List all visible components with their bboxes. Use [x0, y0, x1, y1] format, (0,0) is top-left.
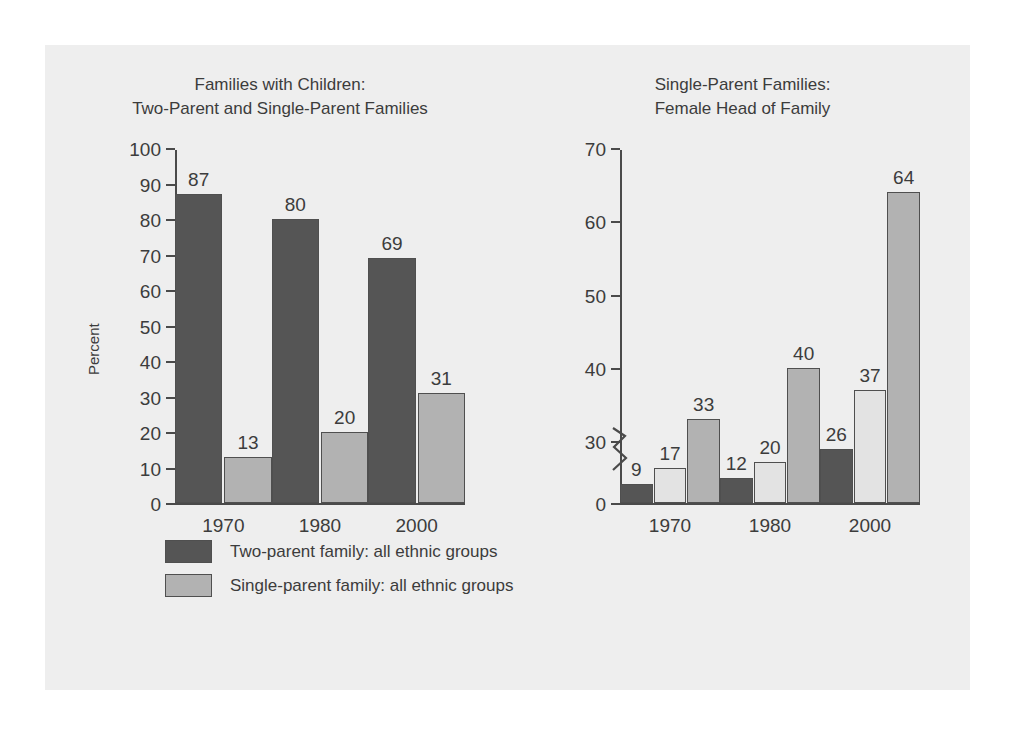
bar-rect	[418, 393, 465, 503]
y-axis-tick-label: 100	[129, 139, 161, 161]
bar-rect	[820, 449, 853, 503]
y-axis-tick-label: 80	[140, 210, 161, 232]
y-axis-tick	[166, 432, 175, 434]
bar[interactable]: 20	[321, 432, 368, 503]
y-axis-tick	[611, 221, 620, 223]
bar-group: 917331970	[620, 148, 720, 503]
legend-item[interactable]: Two-parent family: all ethnic groups	[165, 540, 513, 563]
bar-value-label: 64	[893, 167, 914, 189]
y-axis-tick-label: 0	[150, 494, 161, 516]
x-axis-line-right	[620, 503, 920, 505]
chart-title-left: Families with Children: Two-Parent and S…	[45, 73, 515, 121]
y-axis-tick	[166, 397, 175, 399]
plot-area-left: 0102030405060708090100 87131970802019806…	[175, 150, 465, 505]
bar[interactable]: 17	[654, 468, 687, 503]
y-axis-tick-label: 50	[140, 317, 161, 339]
bar-value-label: 9	[631, 459, 642, 481]
x-axis-category-label: 2000	[849, 515, 891, 537]
bar[interactable]: 40	[787, 368, 820, 503]
bar-value-label: 26	[826, 424, 847, 446]
y-axis-tick-label: 10	[140, 459, 161, 481]
y-axis-tick-label: 50	[585, 286, 606, 308]
x-axis-category-label: 1970	[649, 515, 691, 537]
bar-rect	[224, 457, 271, 503]
bar-value-label: 80	[285, 194, 306, 216]
bar-rect	[720, 478, 753, 503]
x-axis-category-label: 1970	[202, 515, 244, 537]
x-axis-category-label: 1980	[299, 515, 341, 537]
bar-group: 80201980	[272, 148, 369, 503]
bar-group: 2637642000	[820, 148, 920, 503]
chart-single-parent-female-head: Single-Parent Families: Female Head of F…	[515, 45, 970, 690]
chart-families-with-children: Families with Children: Two-Parent and S…	[45, 45, 515, 690]
plot-area-right: 03040506070 9173319701220401980263764200…	[620, 150, 920, 505]
y-axis-tick-label: 20	[140, 423, 161, 445]
y-axis-tick	[166, 503, 175, 505]
chart-title-right: Single-Parent Families: Female Head of F…	[515, 73, 970, 121]
y-axis-tick	[166, 290, 175, 292]
bar-group: 87131970	[175, 148, 272, 503]
bar[interactable]: 26	[820, 449, 853, 503]
bar-value-label: 13	[237, 432, 258, 454]
bar-rect	[787, 368, 820, 503]
bar-group: 69312000	[368, 148, 465, 503]
bar[interactable]: 20	[754, 462, 787, 503]
y-axis-tick-label: 40	[140, 352, 161, 374]
bar[interactable]: 80	[272, 219, 319, 503]
y-axis-tick-label: 30	[140, 388, 161, 410]
bar-value-label: 20	[759, 437, 780, 459]
bar-value-label: 31	[431, 368, 452, 390]
bar-value-label: 37	[859, 365, 880, 387]
bar[interactable]: 12	[720, 478, 753, 503]
y-axis-label-left: Percent	[85, 323, 102, 375]
y-axis-tick-label: 60	[585, 212, 606, 234]
bar[interactable]: 9	[620, 484, 653, 503]
y-axis-tick	[166, 184, 175, 186]
bar-rect	[687, 419, 720, 503]
bar-value-label: 20	[334, 407, 355, 429]
y-axis-tick	[611, 295, 620, 297]
bar-rect	[854, 390, 887, 503]
figure-panel: Families with Children: Two-Parent and S…	[45, 45, 970, 690]
bar[interactable]: 31	[418, 393, 465, 503]
y-axis-tick-label: 30	[585, 432, 606, 454]
bar[interactable]: 33	[687, 419, 720, 503]
bar-value-label: 17	[659, 443, 680, 465]
bar[interactable]: 37	[854, 390, 887, 503]
bar-rect	[620, 484, 653, 503]
legend-swatch	[165, 540, 212, 563]
bar-rect	[887, 192, 920, 503]
y-axis-tick	[166, 361, 175, 363]
bar[interactable]: 64	[887, 192, 920, 503]
y-axis-tick-label: 90	[140, 175, 161, 197]
bar-rect	[321, 432, 368, 503]
legend-item[interactable]: Single-parent family: all ethnic groups	[165, 574, 513, 597]
bar-value-label: 69	[381, 233, 402, 255]
bar-rect	[272, 219, 319, 503]
y-axis-tick	[166, 326, 175, 328]
bar-value-label: 87	[188, 169, 209, 191]
y-axis-tick	[166, 148, 175, 150]
y-axis-tick-label: 70	[585, 139, 606, 161]
bar[interactable]: 69	[368, 258, 415, 503]
bar-value-label: 12	[726, 453, 747, 475]
legend-left: Two-parent family: all ethnic groupsSing…	[165, 540, 513, 608]
y-axis-tick	[611, 503, 620, 505]
y-axis-tick	[611, 148, 620, 150]
bar-rect	[654, 468, 687, 503]
bar-rect	[368, 258, 415, 503]
bar-rect	[754, 462, 787, 503]
y-axis-tick	[611, 368, 620, 370]
bar[interactable]: 87	[175, 194, 222, 503]
y-axis-tick-label: 0	[595, 494, 606, 516]
legend-swatch	[165, 574, 212, 597]
bar-value-label: 40	[793, 343, 814, 365]
x-axis-line-left	[175, 503, 465, 505]
y-axis-tick-label: 40	[585, 359, 606, 381]
legend-label: Two-parent family: all ethnic groups	[230, 542, 497, 562]
y-axis-tick	[166, 219, 175, 221]
y-axis-tick	[166, 255, 175, 257]
bar[interactable]: 13	[224, 457, 271, 503]
y-axis-tick	[166, 468, 175, 470]
y-axis-tick-label: 60	[140, 281, 161, 303]
